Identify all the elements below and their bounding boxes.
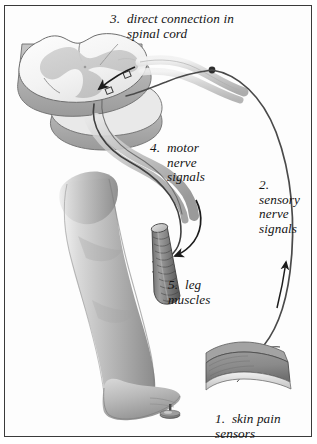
skin-pain-sensor-block — [206, 342, 291, 390]
figure-root: 3. direct connection in spinal cord 4. m… — [0, 0, 317, 444]
human-leg — [59, 172, 155, 412]
label-skin-pain-sensors: 1. skin pain sensors — [215, 412, 281, 441]
label-motor-nerve-signals: 4. motor nerve signals — [150, 141, 205, 185]
label-direct-connection: 3. direct connection in spinal cord — [110, 12, 234, 41]
label-sensory-nerve-signals: 2. sensory nerve signals — [259, 178, 300, 236]
label-leg-muscles: 5. leg muscles — [168, 278, 210, 307]
